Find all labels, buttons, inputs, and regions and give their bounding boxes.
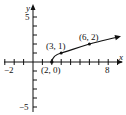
point-label-2-0: (2, 0) bbox=[41, 65, 61, 75]
point-label-6-2: (6, 2) bbox=[79, 32, 99, 42]
point-3-1 bbox=[60, 52, 63, 55]
x-axis-label: x bbox=[118, 52, 123, 62]
tick-label-neg5: −5 bbox=[19, 102, 29, 112]
y-axis-arrow-icon bbox=[31, 4, 36, 10]
tick-label-8: 8 bbox=[105, 65, 110, 75]
point-2-0 bbox=[50, 60, 53, 63]
tick-label-5: 5 bbox=[25, 12, 30, 22]
point-6-2 bbox=[88, 43, 91, 46]
function-graph: y x 5 −5 −2 8 (2, 0) (3, 1) (6, 2) bbox=[0, 0, 126, 115]
point-label-3-1: (3, 1) bbox=[46, 41, 66, 51]
curve-arrow-icon bbox=[115, 35, 122, 40]
tick-label-neg2: −2 bbox=[4, 65, 14, 75]
